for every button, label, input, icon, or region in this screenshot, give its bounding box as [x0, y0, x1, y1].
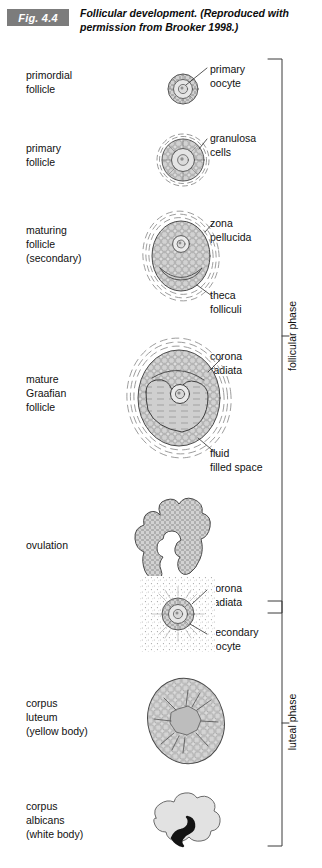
art-corpus-luteum [138, 669, 235, 773]
figure-root: Fig. 4.4 Follicular development. (Reprod… [0, 0, 322, 868]
art-secondary-oocyte [140, 576, 216, 652]
art-maturing-follicle [137, 206, 225, 306]
follicular-development-artwork [0, 0, 322, 868]
art-primordial-follicle [168, 68, 207, 104]
art-ovulation-ruptured-follicle [135, 498, 210, 579]
art-mature-graafian-follicle [120, 332, 238, 464]
bracket-luteal-phase [268, 601, 289, 846]
art-corpus-albicans [154, 793, 220, 846]
art-primary-follicle [157, 134, 209, 186]
bracket-follicular-phase [268, 59, 289, 613]
